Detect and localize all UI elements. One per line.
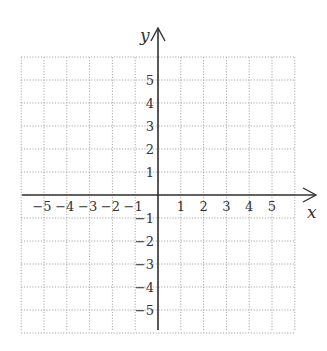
x-tick-label: 1	[177, 199, 185, 214]
x-tick-label: −5	[32, 199, 51, 214]
y-tick-label: −1	[135, 211, 154, 226]
x-axis-label: x	[307, 202, 317, 222]
y-tick-label: −4	[135, 280, 154, 295]
y-axis-label: y	[139, 25, 150, 45]
y-tick-label: 1	[146, 165, 154, 180]
x-tick-label: 5	[268, 199, 276, 214]
x-tick-label: 2	[199, 199, 207, 214]
y-tick-label: 5	[146, 73, 154, 88]
x-tick-label: −3	[78, 199, 97, 214]
y-tick-label: −2	[135, 234, 154, 249]
x-tick-label: −4	[55, 199, 74, 214]
x-tick-labels: −5−4−3−2−112345	[32, 199, 276, 214]
y-tick-label: 4	[146, 96, 154, 111]
coordinate-plane: y x −5−4−3−2−112345 12345−1−2−3−4−5	[0, 0, 327, 351]
y-tick-label: 3	[146, 119, 154, 134]
x-tick-label: −2	[101, 199, 120, 214]
x-tick-label: 4	[245, 199, 253, 214]
y-tick-label: 2	[146, 142, 154, 157]
y-tick-label: −5	[135, 303, 154, 318]
x-tick-label: 3	[222, 199, 230, 214]
y-tick-label: −3	[135, 257, 154, 272]
